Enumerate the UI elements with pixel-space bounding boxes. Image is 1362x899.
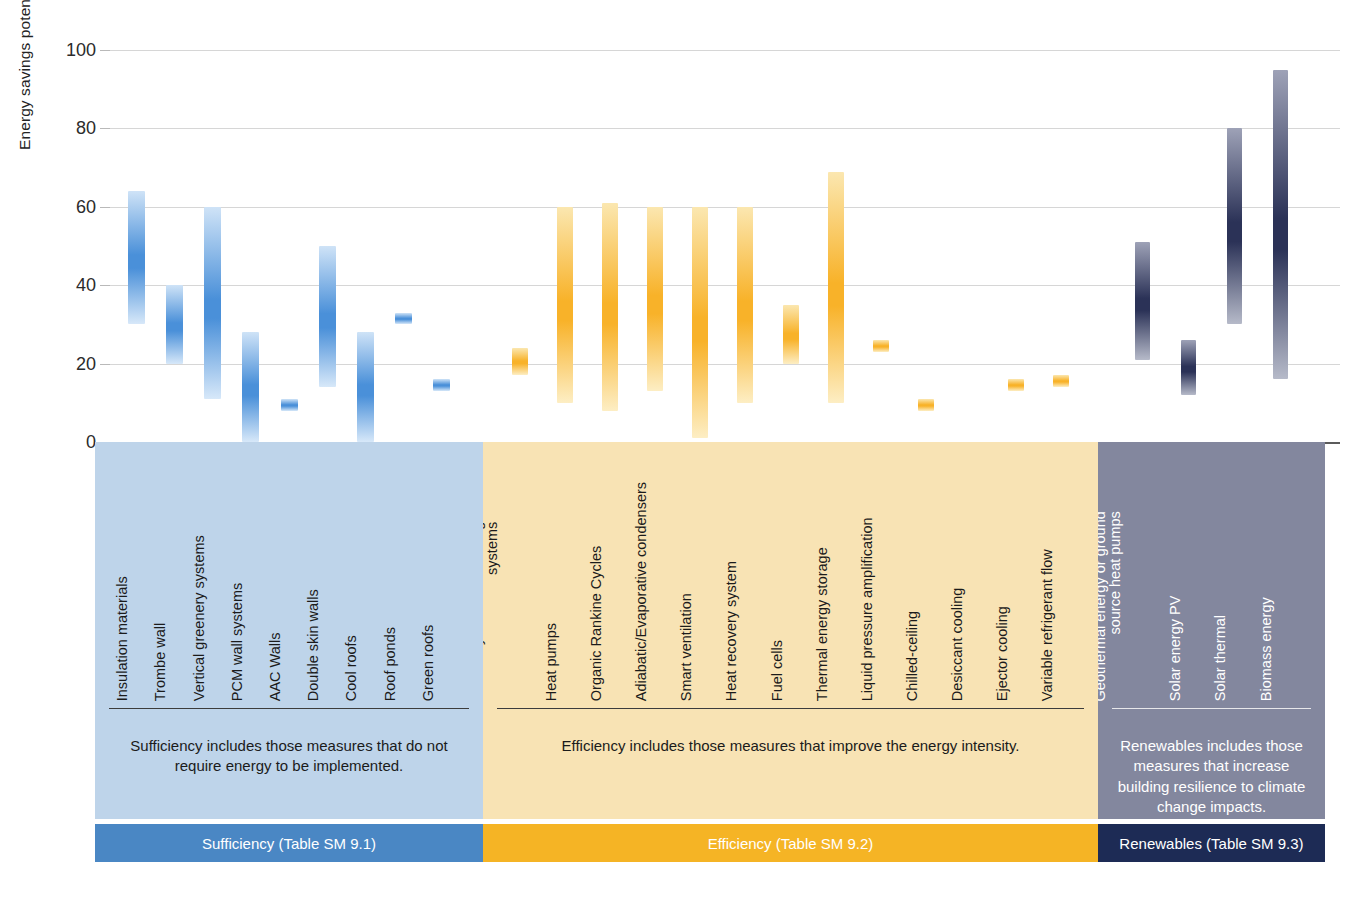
category-label: Thermally activated buildingsystems xyxy=(483,521,500,701)
range-bar[interactable] xyxy=(204,207,221,399)
range-bar[interactable] xyxy=(281,399,298,411)
range-bar[interactable] xyxy=(1181,340,1196,395)
category-label: Organic Rankine Cycles xyxy=(589,545,604,701)
category-label: PCM wall systems xyxy=(230,583,245,701)
panel-divider xyxy=(109,708,469,709)
category-label: Heat recovery system xyxy=(724,561,739,701)
range-bar[interactable] xyxy=(692,207,708,438)
category-label: Smart ventilation xyxy=(679,593,694,701)
panel-description: Renewables includes those measures that … xyxy=(1108,736,1315,817)
legend-strip-sufficiency[interactable]: Sufficiency (Table SM 9.1) xyxy=(95,824,483,862)
range-bar[interactable] xyxy=(647,207,663,391)
category-label: Thermal energy storage xyxy=(814,547,829,701)
range-bar[interactable] xyxy=(918,399,934,411)
category-label: Cool roofs xyxy=(344,635,359,701)
category-label: Solar thermal xyxy=(1213,615,1228,701)
category-label: Biomass energy xyxy=(1259,597,1274,701)
category-label: Double skin walls xyxy=(306,589,321,701)
category-label: Geothermal energy or groundsource heat p… xyxy=(1098,511,1123,701)
range-bar[interactable] xyxy=(1227,128,1242,324)
panel-efficiency: Efficiency includes those measures that … xyxy=(483,442,1098,819)
category-label: Heat pumps xyxy=(544,623,559,701)
category-label: Insulation materials xyxy=(115,576,130,701)
category-label-line: systems xyxy=(484,521,499,701)
chart-root: Energy savings potential [%] 02040608010… xyxy=(0,0,1362,899)
category-label: Desiccant cooling xyxy=(950,587,965,701)
range-bar[interactable] xyxy=(602,203,618,411)
category-label: Solar energy PV xyxy=(1167,595,1182,701)
panel-sufficiency: Sufficiency includes those measures that… xyxy=(95,442,483,819)
range-bar[interactable] xyxy=(395,313,412,325)
range-bar[interactable] xyxy=(242,332,259,442)
range-bar[interactable] xyxy=(1008,379,1024,391)
category-label: Ejector cooling xyxy=(995,606,1010,701)
category-label: Adiabatic/Evaporative condensers xyxy=(634,482,649,701)
panel-divider xyxy=(497,708,1084,709)
category-label: Chilled-ceiling xyxy=(905,611,920,701)
range-bar[interactable] xyxy=(1053,375,1069,387)
category-label: Variable refrigerant flow xyxy=(1040,549,1055,701)
category-label: Trombe wall xyxy=(153,623,168,701)
range-bar[interactable] xyxy=(783,305,799,364)
range-bar[interactable] xyxy=(433,379,450,391)
category-label: Fuel cells xyxy=(769,640,784,701)
range-bar[interactable] xyxy=(737,207,753,403)
panel-description: Sufficiency includes those measures that… xyxy=(105,736,473,777)
category-label: AAC Walls xyxy=(268,632,283,701)
range-bar[interactable] xyxy=(319,246,336,387)
legend-strip-efficiency[interactable]: Efficiency (Table SM 9.2) xyxy=(483,824,1098,862)
range-bar[interactable] xyxy=(873,340,889,352)
panel-divider xyxy=(1112,708,1311,709)
range-bar[interactable] xyxy=(828,172,844,403)
range-bar[interactable] xyxy=(557,207,573,403)
legend-strip-renewables[interactable]: Renewables (Table SM 9.3) xyxy=(1098,824,1325,862)
category-label: Vertical greenery systems xyxy=(191,535,206,701)
range-bar[interactable] xyxy=(357,332,374,442)
range-bar[interactable] xyxy=(128,191,145,324)
range-bar[interactable] xyxy=(512,348,528,375)
panel-description: Efficiency includes those measures that … xyxy=(493,736,1088,756)
panel-renewables: Renewables includes those measures that … xyxy=(1098,442,1325,819)
category-label: Liquid pressure amplification xyxy=(860,517,875,701)
range-bar[interactable] xyxy=(1135,242,1150,360)
range-bar[interactable] xyxy=(166,285,183,363)
category-label-line: source heat pumps xyxy=(1108,511,1123,701)
category-label: Green roofs xyxy=(421,624,436,701)
range-bar[interactable] xyxy=(1273,70,1288,380)
category-label: Roof ponds xyxy=(382,627,397,701)
